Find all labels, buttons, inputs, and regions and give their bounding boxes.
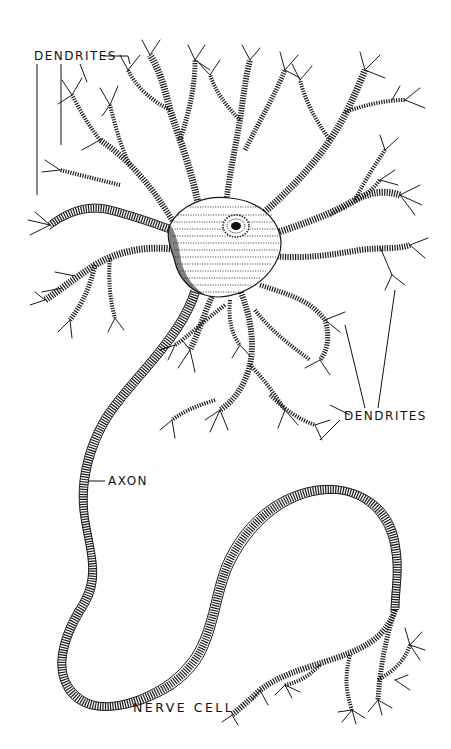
nucleus [223, 215, 249, 237]
axon-terminals [222, 610, 425, 725]
figure-caption: NERVE CELL [133, 702, 234, 715]
axon [58, 290, 401, 710]
dendrites-label-right: DENDRITES [344, 410, 427, 422]
neuron-drawing [0, 0, 451, 749]
axon-label: AXON [108, 475, 148, 487]
nerve-cell-figure: DENDRITES DENDRITES AXON NERVE CELL [0, 0, 451, 749]
dendrites-label-top: DENDRITES [34, 50, 117, 62]
cell-body [168, 197, 281, 296]
